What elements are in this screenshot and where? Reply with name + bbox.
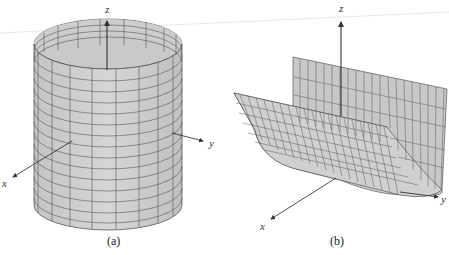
cylinder-figure: z y x (a) xyxy=(1,3,214,248)
y-axis-label: y xyxy=(208,137,214,149)
z-axis-label: z xyxy=(338,2,344,14)
parabolic-cylinder-figure: z y x (b) xyxy=(234,2,447,248)
y-axis-label: y xyxy=(440,193,446,205)
x-axis xyxy=(271,178,336,219)
caption-b: (b) xyxy=(330,234,344,248)
x-axis-label: x xyxy=(259,220,265,232)
figure-canvas: z y x (a) xyxy=(0,0,449,255)
caption-a: (a) xyxy=(107,234,120,248)
x-axis-label: x xyxy=(1,177,7,189)
z-axis-label: z xyxy=(104,3,110,15)
